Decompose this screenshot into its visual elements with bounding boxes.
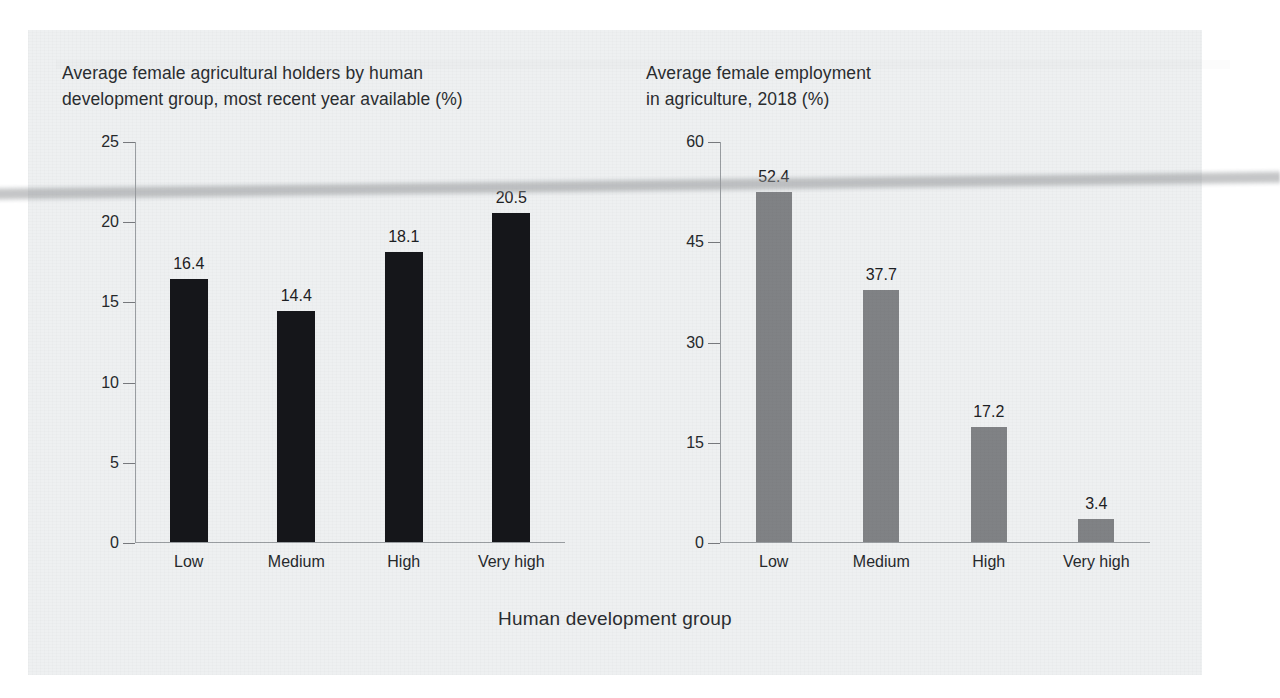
- bar-value-label: 37.7: [866, 266, 897, 284]
- y-axis-tick: [708, 543, 720, 544]
- chart-right-title: Average female employment in agriculture…: [646, 60, 1076, 112]
- figure-panel: Average female agricultural holders by h…: [28, 30, 1202, 675]
- chart-left-plot-area: 16.414.418.120.5 0510152025: [135, 142, 565, 543]
- y-axis-tick-label: 25: [101, 133, 119, 151]
- x-axis-category-label: High: [350, 553, 458, 571]
- x-axis-category-label: Medium: [828, 553, 936, 571]
- y-axis-tick: [123, 302, 135, 303]
- bar-slot: 18.1: [350, 142, 458, 542]
- y-axis-tick: [123, 222, 135, 223]
- y-axis-tick: [123, 463, 135, 464]
- x-axis-category-label: Very high: [1043, 553, 1151, 571]
- x-axis-category-label: Medium: [243, 553, 351, 571]
- chart-right-x-axis-line: [720, 542, 1150, 543]
- bar[interactable]: 37.7: [863, 290, 899, 542]
- chart-left: Average female agricultural holders by h…: [28, 30, 618, 675]
- x-axis-category-label: Low: [720, 553, 828, 571]
- x-axis-category-label: Low: [135, 553, 243, 571]
- y-axis-tick: [123, 142, 135, 143]
- y-axis-tick: [708, 142, 720, 143]
- bar-slot: 14.4: [243, 142, 351, 542]
- bar[interactable]: 14.4: [277, 311, 315, 542]
- bar-slot: 52.4: [720, 142, 828, 542]
- y-axis-tick: [123, 383, 135, 384]
- bar[interactable]: 17.2: [971, 427, 1007, 542]
- bar-value-label: 3.4: [1085, 495, 1107, 513]
- y-axis-tick-label: 45: [686, 233, 704, 251]
- bar-slot: 20.5: [458, 142, 566, 542]
- shared-x-axis-caption: Human development group: [28, 608, 1202, 630]
- bar[interactable]: 20.5: [492, 213, 530, 542]
- y-axis-tick: [708, 242, 720, 243]
- chart-right-plot-area: 52.437.717.23.4 015304560: [720, 142, 1150, 543]
- chart-right-x-labels: LowMediumHighVery high: [720, 553, 1150, 571]
- bar-value-label: 17.2: [973, 403, 1004, 421]
- bar-slot: 37.7: [828, 142, 936, 542]
- y-axis-tick-label: 15: [101, 293, 119, 311]
- y-axis-tick-label: 0: [695, 534, 704, 552]
- y-axis-tick-label: 15: [686, 434, 704, 452]
- chart-right-bars: 52.437.717.23.4: [720, 142, 1150, 542]
- chart-left-bars: 16.414.418.120.5: [135, 142, 565, 542]
- bar-value-label: 16.4: [173, 255, 204, 273]
- y-axis-tick-label: 20: [101, 213, 119, 231]
- bar[interactable]: 18.1: [385, 252, 423, 542]
- y-axis-tick: [123, 543, 135, 544]
- bar-value-label: 52.4: [758, 168, 789, 186]
- chart-left-title: Average female agricultural holders by h…: [62, 60, 562, 112]
- bar-value-label: 14.4: [281, 287, 312, 305]
- chart-left-x-axis-line: [135, 542, 565, 543]
- bar-slot: 3.4: [1043, 142, 1151, 542]
- bar[interactable]: 52.4: [756, 192, 792, 542]
- y-axis-tick: [708, 343, 720, 344]
- y-axis-tick-label: 30: [686, 334, 704, 352]
- y-axis-tick-label: 60: [686, 133, 704, 151]
- y-axis-tick-label: 10: [101, 374, 119, 392]
- y-axis-tick-label: 5: [110, 454, 119, 472]
- chart-right: Average female employment in agriculture…: [618, 30, 1202, 675]
- bar[interactable]: 16.4: [170, 279, 208, 542]
- x-axis-category-label: Very high: [458, 553, 566, 571]
- y-axis-tick-label: 0: [110, 534, 119, 552]
- bar[interactable]: 3.4: [1078, 519, 1114, 542]
- bar-slot: 17.2: [935, 142, 1043, 542]
- bar-value-label: 20.5: [496, 189, 527, 207]
- y-axis-tick: [708, 443, 720, 444]
- bar-value-label: 18.1: [388, 228, 419, 246]
- bar-slot: 16.4: [135, 142, 243, 542]
- chart-left-x-labels: LowMediumHighVery high: [135, 553, 565, 571]
- x-axis-category-label: High: [935, 553, 1043, 571]
